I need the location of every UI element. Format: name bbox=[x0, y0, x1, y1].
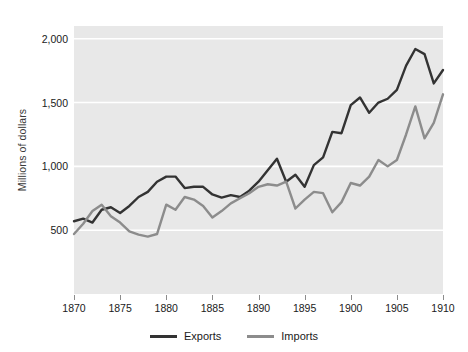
x-tick-mark bbox=[212, 295, 213, 300]
x-tick-label: 1880 bbox=[155, 302, 178, 314]
x-tick-mark bbox=[443, 295, 444, 300]
x-tick-label: 1890 bbox=[247, 302, 270, 314]
x-tick-mark bbox=[259, 295, 260, 300]
x-tick-label: 1905 bbox=[385, 302, 408, 314]
x-tick-mark bbox=[166, 295, 167, 300]
legend-item-imports[interactable]: Imports bbox=[247, 330, 318, 342]
x-tick-mark bbox=[120, 295, 121, 300]
x-tick-label: 1900 bbox=[339, 302, 362, 314]
x-tick-label: 1885 bbox=[201, 302, 224, 314]
legend-swatch-icon bbox=[150, 335, 177, 338]
legend-label: Exports bbox=[184, 330, 221, 342]
x-tick-mark bbox=[397, 295, 398, 300]
legend-item-exports[interactable]: Exports bbox=[150, 330, 221, 342]
x-tick-label: 1875 bbox=[108, 302, 131, 314]
x-tick-mark bbox=[74, 295, 75, 300]
x-tick-label: 1870 bbox=[62, 302, 85, 314]
x-tick-mark bbox=[351, 295, 352, 300]
legend-label: Imports bbox=[281, 330, 318, 342]
x-tick-label: 1895 bbox=[293, 302, 316, 314]
x-tick-label: 1910 bbox=[431, 302, 454, 314]
exports-imports-line-chart: Millions of dollars 5001,0001,5002,000 1… bbox=[0, 0, 468, 352]
chart-legend: ExportsImports bbox=[0, 330, 468, 342]
x-tick-mark bbox=[305, 295, 306, 300]
x-axis-tick-labels: 187018751880188518901895190019051910 bbox=[0, 0, 468, 352]
legend-swatch-icon bbox=[247, 335, 274, 338]
